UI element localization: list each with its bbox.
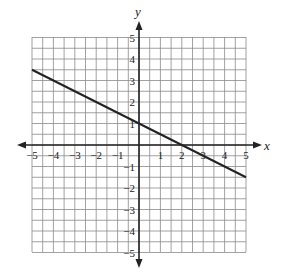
y-axis-up-arrow-icon	[136, 21, 143, 30]
x-tick-label: −3	[69, 149, 81, 161]
x-tick-label: −2	[90, 149, 102, 161]
x-tick-label: −5	[26, 149, 38, 161]
x-tick-label: −1	[112, 149, 124, 161]
y-tick-label: −3	[123, 204, 135, 216]
coordinate-plane: −5−4−3−2−112345−5−4−3−2−112345 x y	[0, 0, 281, 280]
x-tick-label: 2	[179, 149, 185, 161]
y-tick-label: −5	[123, 247, 135, 259]
y-axis-down-arrow-icon	[136, 259, 143, 268]
y-tick-label: 2	[130, 96, 136, 108]
y-tick-label: −2	[123, 182, 135, 194]
x-axis-label: x	[263, 138, 270, 153]
x-axis-left-arrow-icon	[17, 142, 26, 149]
x-tick-label: 5	[243, 149, 249, 161]
y-tick-label: −4	[123, 225, 135, 237]
y-tick-label: 4	[130, 53, 136, 65]
x-tick-label: 1	[158, 149, 164, 161]
x-tick-label: −4	[48, 149, 60, 161]
y-tick-label: 5	[130, 32, 136, 44]
x-tick-label: 4	[222, 149, 228, 161]
x-axis-right-arrow-icon	[253, 142, 262, 149]
y-tick-label: −1	[123, 161, 135, 173]
y-tick-label: 3	[130, 75, 136, 87]
y-axis-label: y	[133, 4, 141, 19]
